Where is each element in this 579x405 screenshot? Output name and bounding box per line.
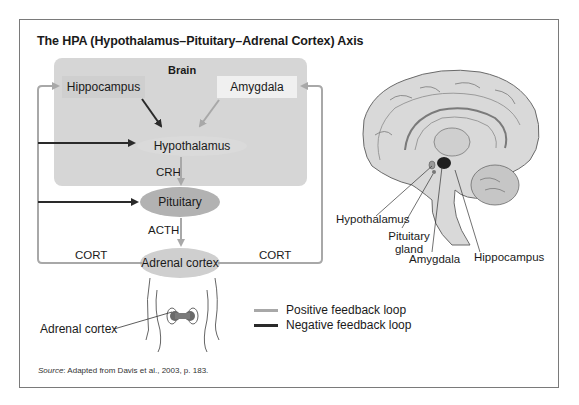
legend-label-positive: Positive feedback loop	[286, 303, 406, 317]
adrenal-glands	[170, 311, 195, 321]
legend-swatch-negative	[254, 324, 278, 327]
diagram-arrows	[0, 0, 579, 405]
brain-label-pituitary-line1: Pituitary	[386, 230, 432, 243]
legend-swatch-positive	[254, 309, 278, 312]
body-label-adrenal-cortex: Adrenal cortex	[40, 322, 117, 336]
source-text: : Adapted from Davis et al., 2003, p. 18…	[63, 366, 208, 375]
legend-label-negative: Negative feedback loop	[286, 318, 411, 332]
brain-label-hypothalamus: Hypothalamus	[336, 213, 410, 226]
legend-positive: Positive feedback loop	[254, 303, 406, 317]
brain-label-amygdala: Amygdala	[409, 253, 460, 266]
legend-negative: Negative feedback loop	[254, 318, 411, 332]
source-citation: Source: Adapted from Davis et al., 2003,…	[38, 366, 208, 375]
source-prefix: Source	[38, 366, 63, 375]
brain-label-hippocampus: Hippocampus	[474, 251, 544, 264]
